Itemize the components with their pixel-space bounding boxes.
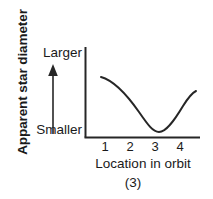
x-tick-1: 1 [95, 139, 115, 155]
x-tick-3: 3 [145, 139, 165, 155]
x-axis-ticks: 1 2 3 4 [85, 139, 200, 155]
x-tick-2: 2 [120, 139, 140, 155]
figure-container: Apparent star diameter Larger Smaller 1 … [0, 0, 213, 199]
data-curve [101, 77, 196, 132]
figure-caption: (3) [73, 175, 193, 190]
x-axis-title: Location in orbit [73, 156, 213, 171]
x-tick-4: 4 [170, 139, 190, 155]
